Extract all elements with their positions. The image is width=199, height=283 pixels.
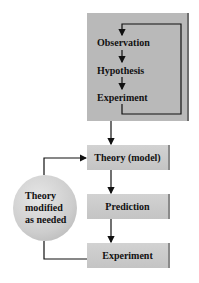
- loop-arrow: [122, 24, 181, 114]
- circle-to-theory-arrow: [44, 158, 86, 175]
- connector-lines: [0, 0, 199, 283]
- experiment-to-circle-line: [44, 241, 87, 259]
